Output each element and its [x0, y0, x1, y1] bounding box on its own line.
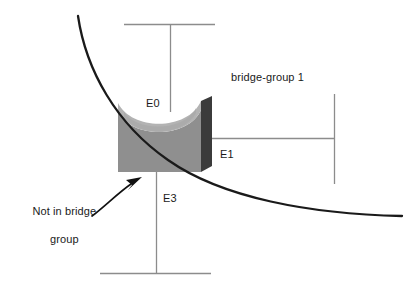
bridge-group-label: bridge-group 1: [231, 71, 304, 84]
interface-label-e3: E3: [163, 192, 177, 205]
interface-label-e1: E1: [220, 148, 234, 161]
segment-e1-right: [205, 94, 335, 184]
not-in-bridge-group-line-1: Not in bridge: [32, 205, 96, 217]
not-in-bridge-group-line-2: group: [50, 233, 79, 245]
diagram-canvas: E0 E1 E3 bridge-group 1 Not in bridge gr…: [0, 0, 416, 291]
interface-label-e0: E0: [146, 97, 160, 110]
segment-e0-top: [124, 25, 215, 113]
callout-arrow-head: [126, 177, 142, 190]
bridge-box-side-panel: [201, 96, 212, 172]
not-in-bridge-group-label: Not in bridge group: [10, 190, 106, 260]
segment-e3-bottom: [100, 172, 211, 274]
bridge-device-box: [118, 96, 212, 172]
